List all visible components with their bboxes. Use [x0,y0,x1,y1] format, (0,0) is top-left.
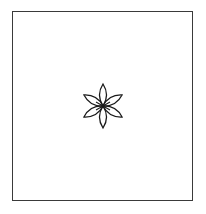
six-petal-flower-icon [0,0,206,214]
